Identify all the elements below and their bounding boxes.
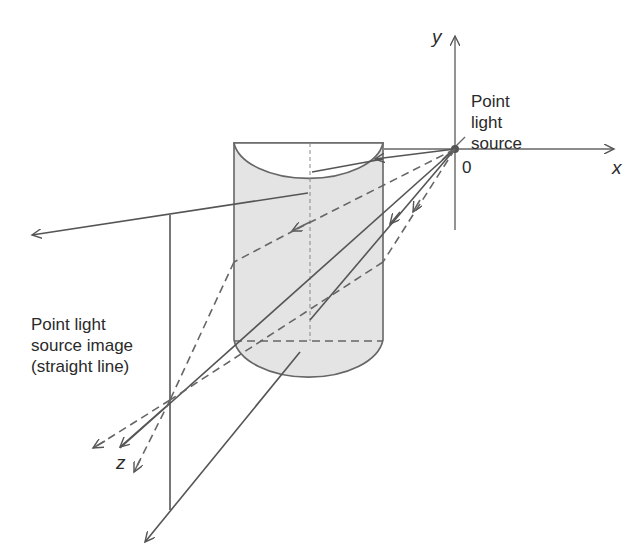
label-line: source image [31, 335, 133, 356]
point-light-source-label: Point light source [471, 91, 522, 154]
label-line: light [471, 112, 522, 133]
label-line: (straight line) [31, 356, 133, 377]
origin-label: 0 [462, 157, 471, 178]
label-line: Point light [31, 314, 133, 335]
y-axis-label: y [432, 26, 442, 47]
x-axis-label: x [612, 157, 622, 178]
cylinder-lens-diagram [0, 0, 644, 553]
label-line: Point [471, 91, 522, 112]
point-light-source-image-label: Point light source image (straight line) [31, 314, 133, 377]
z-axis-label: z [116, 452, 126, 473]
label-line: source [471, 133, 522, 154]
